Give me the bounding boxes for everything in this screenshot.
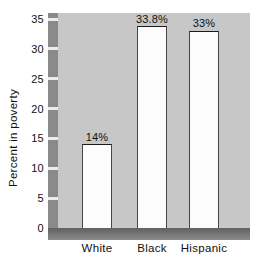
y-tick-label: 5 — [0, 192, 44, 204]
bar-value-label: 33.8% — [122, 13, 182, 25]
y-tick-notch — [48, 18, 58, 21]
y-tick-notch — [48, 167, 58, 170]
bar — [82, 144, 112, 228]
y-tick-label: 30 — [0, 43, 44, 55]
y-tick-notch — [48, 107, 58, 110]
bar — [189, 31, 219, 228]
bar-value-label: 33% — [174, 17, 234, 29]
y-tick-notch — [48, 137, 58, 140]
y-tick-label: 0 — [0, 222, 44, 234]
bar — [137, 26, 167, 228]
poverty-bar-chart: 05101520253035 Percent in poverty 14%33.… — [0, 0, 258, 265]
x-category-label: Hispanic — [169, 242, 239, 255]
y-tick-label: 35 — [0, 13, 44, 25]
y-tick-notch — [48, 77, 58, 80]
y-tick-notch — [48, 47, 58, 50]
y-tick-label: 25 — [0, 73, 44, 85]
y-axis-title: Percent in poverty — [7, 89, 19, 187]
bar-value-label: 14% — [67, 131, 127, 143]
x-axis — [48, 228, 250, 240]
y-tick-notch — [48, 197, 58, 200]
